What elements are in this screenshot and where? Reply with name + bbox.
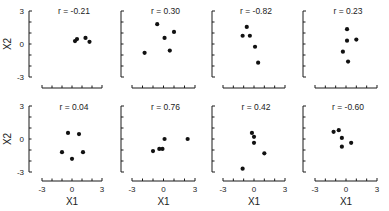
- data-point: [186, 137, 190, 141]
- x-tick-label: -3: [128, 185, 136, 194]
- correlation-label: r = 0.04: [59, 102, 88, 112]
- x-tick-label: 0: [344, 185, 349, 194]
- correlation-label: r = 0.42: [241, 102, 270, 112]
- x-tick-label: -3: [311, 185, 319, 194]
- x-tick-label: -3: [219, 185, 227, 194]
- y-tick-label: 0: [20, 40, 25, 49]
- data-point: [345, 27, 349, 31]
- x-tick-label: 3: [100, 185, 105, 194]
- data-point: [70, 157, 74, 161]
- data-point: [87, 40, 91, 44]
- data-point: [346, 60, 350, 64]
- y-tick-label: 0: [20, 135, 25, 144]
- data-point: [172, 30, 176, 34]
- data-point: [162, 36, 166, 40]
- data-point: [143, 51, 147, 55]
- x-tick-label: 0: [252, 185, 257, 194]
- correlation-label: r = 0.30: [151, 6, 180, 16]
- data-point: [349, 141, 353, 145]
- data-point: [250, 131, 254, 135]
- data-point: [341, 50, 345, 54]
- y-axis-title: X2: [2, 37, 13, 50]
- data-point: [245, 25, 249, 29]
- data-point: [151, 149, 155, 153]
- data-point: [332, 130, 336, 134]
- x-tick-label: -3: [38, 185, 46, 194]
- correlation-label: r = -0.21: [58, 6, 90, 16]
- data-point: [160, 147, 164, 151]
- data-point: [75, 37, 79, 41]
- correlation-label: r = -0.82: [240, 6, 272, 16]
- data-point: [337, 128, 341, 132]
- x-axis-title: X1: [248, 196, 261, 207]
- data-point: [155, 22, 159, 26]
- x-tick-label: 0: [70, 185, 75, 194]
- data-point: [81, 150, 85, 154]
- x-tick-label: 3: [193, 185, 198, 194]
- data-point: [345, 39, 349, 43]
- correlation-label: r = 0.23: [333, 6, 362, 16]
- data-point: [340, 136, 344, 140]
- data-point: [248, 34, 252, 38]
- data-point: [83, 36, 87, 40]
- x-axis-title: X1: [157, 196, 170, 207]
- scatter-matrix-chart: r = -0.2130-3X2r = 0.30r = -0.82r = 0.23…: [0, 0, 389, 211]
- correlation-label: r = 0.76: [151, 102, 180, 112]
- correlation-label: r = -0.60: [332, 102, 364, 112]
- data-point: [77, 132, 81, 136]
- x-axis-title: X1: [66, 196, 79, 207]
- data-point: [252, 135, 256, 139]
- data-point: [253, 45, 257, 49]
- x-tick-label: 3: [283, 185, 288, 194]
- data-point: [168, 49, 172, 53]
- data-point: [241, 34, 245, 38]
- y-tick-label: 3: [20, 7, 25, 16]
- x-tick-label: 3: [375, 185, 380, 194]
- data-point: [66, 131, 70, 135]
- data-point: [60, 150, 64, 154]
- y-tick-label: -3: [17, 73, 25, 82]
- data-point: [241, 167, 245, 171]
- y-axis-title: X2: [2, 132, 13, 145]
- x-tick-label: 0: [161, 185, 166, 194]
- data-point: [262, 151, 266, 155]
- y-tick-label: -3: [17, 168, 25, 177]
- data-point: [340, 145, 344, 149]
- data-point: [256, 61, 260, 65]
- data-point: [252, 141, 256, 145]
- data-point: [162, 137, 166, 141]
- y-tick-label: 3: [20, 102, 25, 111]
- x-axis-title: X1: [340, 196, 353, 207]
- data-point: [354, 38, 358, 42]
